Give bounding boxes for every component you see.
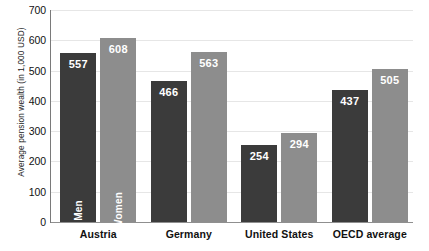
y-axis-ticks: 0100200300400500600700 xyxy=(0,10,46,222)
bar-women-united-states[interactable]: 294 xyxy=(281,133,317,222)
y-axis-tick-label: 300 xyxy=(6,125,46,137)
bar-value-label: 294 xyxy=(281,138,317,150)
bar-men-oecd-average[interactable]: 437 xyxy=(332,90,368,222)
bar-value-label: 466 xyxy=(151,86,187,98)
axis-baseline xyxy=(51,222,413,223)
y-axis-tick-label: 500 xyxy=(6,65,46,77)
bar-women-austria[interactable]: 608Women xyxy=(100,38,136,222)
bar-value-label: 437 xyxy=(332,95,368,107)
bar-group: 437505 xyxy=(332,10,408,222)
y-axis-tick-label: 400 xyxy=(6,95,46,107)
y-axis-tick-label: 200 xyxy=(6,155,46,167)
y-axis-tick-label: 100 xyxy=(6,186,46,198)
x-axis-category-labels: AustriaGermanyUnited StatesOECD average xyxy=(51,228,413,248)
bar-value-label: 505 xyxy=(372,74,408,86)
bar-men-austria[interactable]: 557Men xyxy=(60,53,96,222)
bar-value-label: 557 xyxy=(60,58,96,70)
bar-group: 557Men608Women xyxy=(60,10,136,222)
bar-value-label: 563 xyxy=(191,57,227,69)
bar-women-germany[interactable]: 563 xyxy=(191,52,227,223)
category-label-germany: Germany xyxy=(166,228,212,240)
y-axis-tick-label: 700 xyxy=(6,4,46,16)
category-label-oecd-average: OECD average xyxy=(333,228,407,240)
bar-women-oecd-average[interactable]: 505 xyxy=(372,69,408,222)
series-label-men: Men xyxy=(73,200,84,221)
plot-area: 557Men608Women466563254294437505 xyxy=(51,10,413,222)
bar-group: 254294 xyxy=(241,10,317,222)
bar-men-united-states[interactable]: 254 xyxy=(241,145,277,222)
bar-value-label: 254 xyxy=(241,150,277,162)
bar-value-label: 608 xyxy=(100,43,136,55)
y-axis-tick-label: 0 xyxy=(6,216,46,228)
bar-men-germany[interactable]: 466 xyxy=(151,81,187,222)
bar-chart: Average pension wealth (in 1,000 USD) 01… xyxy=(0,0,429,251)
y-axis-tick-label: 600 xyxy=(6,34,46,46)
category-label-austria: Austria xyxy=(80,228,117,240)
bar-groups: 557Men608Women466563254294437505 xyxy=(51,10,413,222)
bar-group: 466563 xyxy=(151,10,227,222)
series-label-women: Women xyxy=(113,192,124,229)
category-label-united-states: United States xyxy=(245,228,313,240)
